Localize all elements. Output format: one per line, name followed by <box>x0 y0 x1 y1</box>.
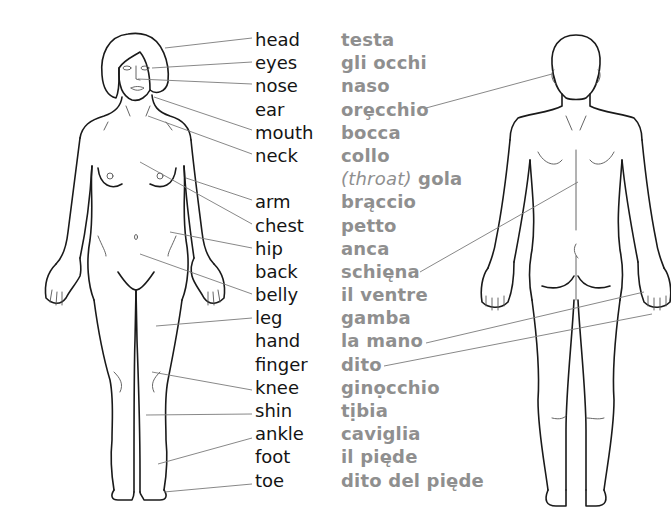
term-en: knee <box>255 376 313 399</box>
term-en: leg <box>255 306 313 329</box>
term-it: petto <box>341 214 484 237</box>
term-it: tịbia <box>341 399 484 422</box>
term-en: back <box>255 260 313 283</box>
term-it: anca <box>341 237 484 260</box>
term-en: arm <box>255 190 313 213</box>
term-it: la mano <box>341 329 484 352</box>
back-body-figure <box>481 35 671 506</box>
term-en: neck <box>255 144 313 167</box>
term-it: gola <box>418 168 462 189</box>
term-it: gamba <box>341 306 484 329</box>
term-it: caviglia <box>341 422 484 445</box>
term-it-throat: (throat) gola <box>341 167 484 190</box>
italian-terms-column: testa gli occhi naso orȩcchio bocca coll… <box>341 28 484 492</box>
term-it: testa <box>341 28 484 51</box>
term-en: eyes <box>255 51 313 74</box>
anatomy-diagram: head eyes nose ear mouth neck arm chest … <box>0 0 671 528</box>
term-en: hand <box>255 329 313 352</box>
term-it: collo <box>341 144 484 167</box>
term-en: nose <box>255 74 313 97</box>
term-en: head <box>255 28 313 51</box>
term-note: (throat) <box>341 168 412 189</box>
english-terms-column: head eyes nose ear mouth neck arm chest … <box>255 28 313 492</box>
term-en: shin <box>255 399 313 422</box>
front-body-figure <box>45 33 224 500</box>
term-en: ankle <box>255 422 313 445</box>
term-en <box>255 167 313 190</box>
term-en: mouth <box>255 121 313 144</box>
term-it: il pięde <box>341 445 484 468</box>
term-it: il ventre <box>341 283 484 306</box>
term-en: foot <box>255 445 313 468</box>
term-it: brąccio <box>341 190 484 213</box>
term-en: finger <box>255 353 313 376</box>
figures-illustration <box>0 0 671 528</box>
term-it: bocca <box>341 121 484 144</box>
term-it: ginọcchio <box>341 376 484 399</box>
term-en: ear <box>255 98 313 121</box>
term-it: dito <box>341 353 484 376</box>
term-it: gli occhi <box>341 51 484 74</box>
term-it: schięna <box>341 260 484 283</box>
term-en: belly <box>255 283 313 306</box>
term-it: dito del pięde <box>341 469 484 492</box>
term-en: chest <box>255 214 313 237</box>
term-en: toe <box>255 469 313 492</box>
term-en: hip <box>255 237 313 260</box>
term-it: naso <box>341 74 484 97</box>
term-it: orȩcchio <box>341 98 484 121</box>
